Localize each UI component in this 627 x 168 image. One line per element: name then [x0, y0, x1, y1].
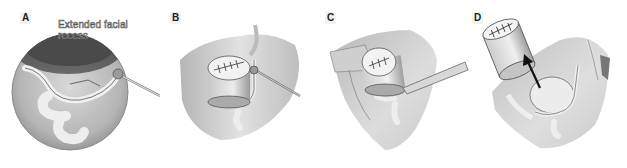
surgical-illustration-b — [160, 0, 315, 168]
panel-label-c: C — [325, 12, 336, 24]
panel-b: B — [160, 0, 315, 168]
panel-label-b: B — [170, 12, 181, 24]
surgical-illustration-c — [315, 0, 470, 168]
annotation-line-2: recess — [58, 30, 128, 41]
surgical-illustration-d — [470, 0, 627, 168]
panel-a: A Extended facial recess — [0, 0, 160, 168]
panel-label-d: D — [472, 12, 483, 24]
panel-d: D — [470, 0, 627, 168]
annotation-line-1: Extended facial — [58, 19, 128, 30]
annotation-extended-facial-recess: Extended facial recess — [58, 19, 128, 41]
panel-label-a: A — [20, 12, 31, 24]
panel-c: C — [315, 0, 470, 168]
